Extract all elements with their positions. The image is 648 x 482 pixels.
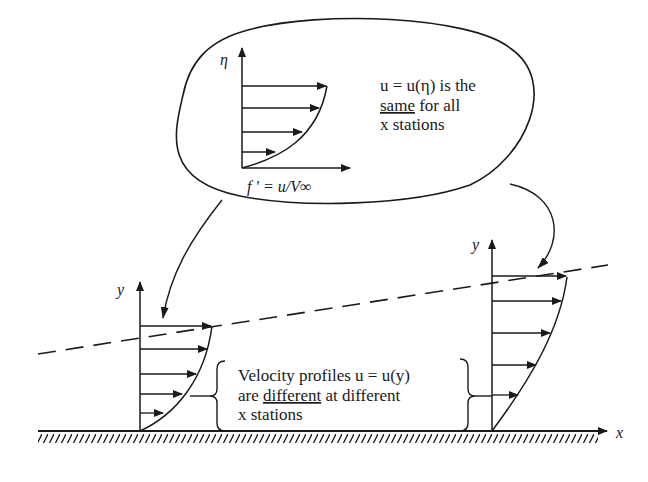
annotation-line2: are different at different [238,386,400,405]
bubble-text-line1: u = u(η) is the [380,76,476,95]
same-underlined: same [380,96,415,115]
eta-axis-label: η [220,51,228,69]
left-brace [210,361,225,431]
bubble-text-line2: same for all [380,96,461,115]
boundary-layer-edge [38,265,608,354]
similarity-bubble [176,18,534,203]
bubble-profile-curve [242,86,327,168]
left-y-axis-label: y [115,281,125,299]
left-velocity-profile [140,282,212,431]
f-prime-axis-label: f ′ = u/V∞ [247,178,311,196]
x-axis-label: x [615,424,623,441]
annotation-line1: Velocity profiles u = u(y) [238,366,410,385]
bubble-profile [242,48,350,168]
left-profile-curve [140,326,212,431]
boundary-layer-diagram: η f ′ = u/V∞ u = u(η) is the same for al… [0,0,648,482]
annotation-line3: x stations [238,405,303,424]
right-velocity-profile [492,240,567,431]
right-y-axis-label: y [470,236,480,254]
right-brace [460,359,475,431]
different-underlined: different [263,386,321,405]
wall-hatching [38,431,598,443]
bubble-text-line3: x stations [380,115,445,134]
pointer-arrow-right [510,184,554,268]
pointer-arrow-left [163,200,222,318]
right-profile-curve [492,277,567,431]
